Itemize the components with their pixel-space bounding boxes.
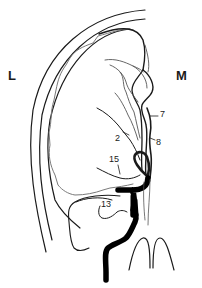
branch-5: [145, 45, 149, 72]
outer-contour-1: [31, 10, 145, 252]
callout-8: 8: [156, 138, 161, 147]
outer-contour-2: [40, 19, 145, 240]
anatomical-diagram: [0, 0, 202, 288]
leader-8: [150, 138, 155, 140]
bottom-arch-left: [129, 238, 150, 270]
medial-label: M: [176, 69, 187, 82]
callout-7: 7: [160, 110, 165, 119]
lower-arch: [69, 195, 120, 250]
leader-15: [118, 165, 120, 174]
callout-13: 13: [101, 200, 111, 209]
lateral-label: L: [8, 69, 16, 82]
main-artery: [106, 178, 149, 280]
callout-15: 15: [109, 155, 119, 164]
bottom-arch-right: [153, 238, 174, 270]
callout-2: 2: [115, 134, 120, 143]
midline-1: [148, 180, 150, 225]
artery-segment-mid: [136, 200, 137, 215]
lower-vessel-15: [97, 168, 140, 179]
brain-surface: [49, 29, 133, 195]
cortical-vessel-top: [99, 29, 145, 70]
